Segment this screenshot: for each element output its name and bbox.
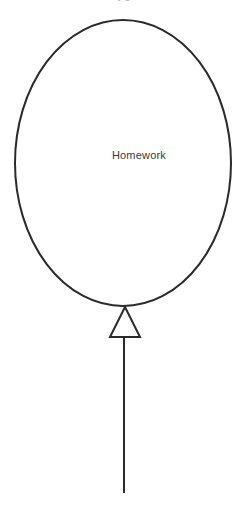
balloon-body[interactable] — [15, 20, 231, 306]
diagram-canvas: y g Homework — [0, 0, 248, 508]
triangle-knot-icon[interactable] — [110, 307, 140, 337]
balloon-graphic — [0, 0, 248, 508]
balloon-label: Homework — [0, 149, 248, 162]
